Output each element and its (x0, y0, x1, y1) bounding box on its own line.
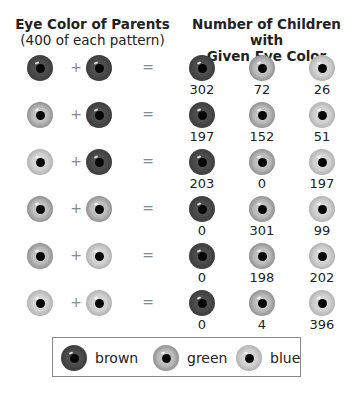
child-count-brown: 0 (182, 270, 222, 285)
blue-eye-icon (27, 290, 53, 316)
blue-eye-icon (309, 102, 335, 128)
blue-eye-icon (236, 345, 262, 371)
legend-item-green: green (153, 344, 227, 372)
equals-sign: = (141, 153, 155, 169)
child-count-green: 4 (242, 317, 282, 332)
blue-eye-icon (86, 243, 112, 269)
brown-eye-icon (189, 55, 215, 81)
equals-sign: = (141, 200, 155, 216)
child-count-blue: 197 (302, 176, 342, 191)
green-eye-icon (27, 196, 53, 222)
child-count-blue: 99 (302, 223, 342, 238)
brown-eye-icon (189, 149, 215, 175)
plus-sign: + (69, 247, 83, 263)
green-eye-icon (153, 345, 179, 371)
blue-eye-icon (309, 196, 335, 222)
parents-header: Eye Color of Parents (400 of each patter… (10, 16, 175, 48)
child-count-brown: 197 (182, 129, 222, 144)
green-eye-icon (249, 149, 275, 175)
brown-eye-icon (27, 55, 53, 81)
equals-sign: = (141, 106, 155, 122)
brown-eye-icon (189, 196, 215, 222)
child-count-green: 301 (242, 223, 282, 238)
parents-title: Eye Color of Parents (10, 16, 175, 32)
brown-eye-icon (86, 149, 112, 175)
child-count-blue: 51 (302, 129, 342, 144)
equals-sign: = (141, 294, 155, 310)
brown-eye-icon (86, 55, 112, 81)
brown-eye-icon (189, 290, 215, 316)
child-count-green: 198 (242, 270, 282, 285)
equals-sign: = (141, 59, 155, 75)
blue-eye-icon (86, 290, 112, 316)
plus-sign: + (69, 153, 83, 169)
blue-eye-icon (309, 243, 335, 269)
plus-sign: + (69, 294, 83, 310)
child-count-blue: 396 (302, 317, 342, 332)
legend-item-blue: blue (236, 344, 300, 372)
green-eye-icon (249, 290, 275, 316)
legend-label: blue (270, 350, 300, 366)
blue-eye-icon (309, 290, 335, 316)
child-count-brown: 203 (182, 176, 222, 191)
child-count-green: 152 (242, 129, 282, 144)
equals-sign: = (141, 247, 155, 263)
green-eye-icon (86, 196, 112, 222)
child-count-brown: 302 (182, 82, 222, 97)
legend-item-brown: brown (61, 344, 138, 372)
child-count-brown: 0 (182, 317, 222, 332)
blue-eye-icon (27, 149, 53, 175)
parents-subtitle: (400 of each pattern) (10, 32, 175, 48)
plus-sign: + (69, 59, 83, 75)
child-count-green: 0 (242, 176, 282, 191)
brown-eye-icon (189, 102, 215, 128)
child-count-brown: 0 (182, 223, 222, 238)
brown-eye-icon (189, 243, 215, 269)
child-count-blue: 26 (302, 82, 342, 97)
legend: brown green blue (52, 337, 301, 377)
green-eye-icon (249, 55, 275, 81)
legend-label: brown (95, 350, 138, 366)
plus-sign: + (69, 200, 83, 216)
child-count-blue: 202 (302, 270, 342, 285)
brown-eye-icon (86, 102, 112, 128)
brown-eye-icon (61, 345, 87, 371)
green-eye-icon (27, 243, 53, 269)
green-eye-icon (249, 196, 275, 222)
plus-sign: + (69, 106, 83, 122)
child-count-green: 72 (242, 82, 282, 97)
blue-eye-icon (309, 149, 335, 175)
green-eye-icon (249, 102, 275, 128)
children-title-line1: Number of Children with (180, 16, 353, 48)
green-eye-icon (27, 102, 53, 128)
green-eye-icon (249, 243, 275, 269)
legend-label: green (187, 350, 227, 366)
blue-eye-icon (309, 55, 335, 81)
